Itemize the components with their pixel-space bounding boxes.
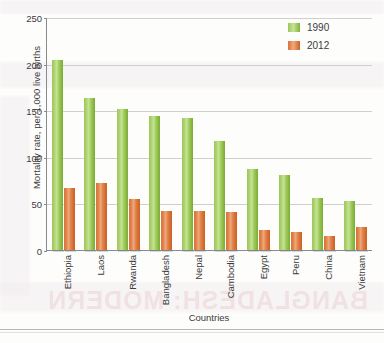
y-axis-tick-label: 50 bbox=[31, 199, 42, 210]
bar-nepal-1990[interactable] bbox=[182, 118, 193, 250]
x-axis-label-laos: Laos bbox=[95, 255, 106, 276]
bar-bangladesh-2012[interactable] bbox=[161, 211, 172, 250]
x-tick-cell: Rwanda bbox=[111, 253, 144, 309]
y-axis-tick-label: 100 bbox=[26, 152, 42, 163]
x-axis-label-vietnam: Vietnam bbox=[356, 255, 367, 290]
x-tick-cell: Cambodia bbox=[209, 253, 242, 309]
page-divider-rule bbox=[0, 329, 384, 330]
legend-label-2012: 2012 bbox=[307, 40, 329, 51]
y-axis-tick-label: 0 bbox=[37, 246, 42, 257]
mortality-rate-bar-chart: Mortality rate, per 1,000 live births 05… bbox=[0, 0, 384, 343]
bar-group bbox=[340, 18, 373, 250]
y-axis-tick-label: 150 bbox=[26, 106, 42, 117]
bar-bangladesh-1990[interactable] bbox=[149, 116, 160, 250]
legend-swatch-1990-icon bbox=[288, 23, 300, 32]
bar-vietnam-2012[interactable] bbox=[356, 227, 367, 250]
bar-peru-2012[interactable] bbox=[291, 232, 302, 250]
y-axis-tick-label: 200 bbox=[26, 59, 42, 70]
x-tick-cell: Egypt bbox=[242, 253, 275, 309]
bar-cambodia-2012[interactable] bbox=[226, 212, 237, 250]
bar-group bbox=[210, 18, 243, 250]
bar-china-1990[interactable] bbox=[312, 198, 323, 250]
legend-swatch-2012-icon bbox=[288, 41, 300, 50]
x-axis-label-ethiopia: Ethiopia bbox=[62, 255, 73, 289]
x-axis-tick-labels: EthiopiaLaosRwandaBangladeshNepalCambodi… bbox=[46, 253, 372, 309]
bar-nepal-2012[interactable] bbox=[194, 211, 205, 250]
legend-label-1990: 1990 bbox=[307, 22, 329, 33]
legend-item-1990: 1990 bbox=[288, 22, 329, 33]
x-tick-cell: Bangladesh bbox=[144, 253, 177, 309]
bar-group bbox=[112, 18, 145, 250]
bar-group bbox=[47, 18, 80, 250]
y-axis-title: Mortality rate, per 1,000 live births bbox=[31, 18, 42, 218]
x-axis-label-china: China bbox=[323, 255, 334, 280]
x-axis-label-nepal: Nepal bbox=[193, 255, 204, 280]
bar-group bbox=[80, 18, 113, 250]
x-tick-cell: Laos bbox=[79, 253, 112, 309]
x-tick-cell: Vietnam bbox=[339, 253, 372, 309]
x-tick-cell: Nepal bbox=[176, 253, 209, 309]
bar-cambodia-1990[interactable] bbox=[214, 141, 225, 250]
bar-rwanda-2012[interactable] bbox=[129, 199, 140, 250]
bar-egypt-1990[interactable] bbox=[247, 169, 258, 250]
y-axis-tick-label: 250 bbox=[26, 13, 42, 24]
legend: 1990 2012 bbox=[288, 22, 329, 58]
bar-vietnam-1990[interactable] bbox=[344, 201, 355, 250]
bar-group bbox=[242, 18, 275, 250]
bar-peru-1990[interactable] bbox=[279, 175, 290, 250]
page-divider-rule-secondary bbox=[0, 332, 384, 333]
bar-egypt-2012[interactable] bbox=[259, 230, 270, 251]
bar-laos-2012[interactable] bbox=[96, 183, 107, 250]
bar-rwanda-1990[interactable] bbox=[117, 109, 128, 250]
bar-laos-1990[interactable] bbox=[84, 98, 95, 250]
x-axis-label-bangladesh: Bangladesh bbox=[160, 255, 171, 305]
x-tick-cell: Peru bbox=[274, 253, 307, 309]
x-axis-label-cambodia: Cambodia bbox=[225, 255, 236, 298]
bar-group bbox=[145, 18, 178, 250]
x-axis-label-egypt: Egypt bbox=[258, 255, 269, 279]
x-axis-label-peru: Peru bbox=[290, 255, 301, 275]
y-axis-tick-mark bbox=[44, 251, 47, 252]
bar-group bbox=[177, 18, 210, 250]
x-axis-title: Countries bbox=[46, 312, 372, 323]
legend-item-2012: 2012 bbox=[288, 40, 329, 51]
x-tick-cell: Ethiopia bbox=[46, 253, 79, 309]
bar-china-2012[interactable] bbox=[324, 236, 335, 250]
x-tick-cell: China bbox=[307, 253, 340, 309]
bar-ethiopia-1990[interactable] bbox=[52, 60, 63, 250]
bar-ethiopia-2012[interactable] bbox=[64, 188, 75, 250]
x-axis-label-rwanda: Rwanda bbox=[127, 255, 138, 290]
